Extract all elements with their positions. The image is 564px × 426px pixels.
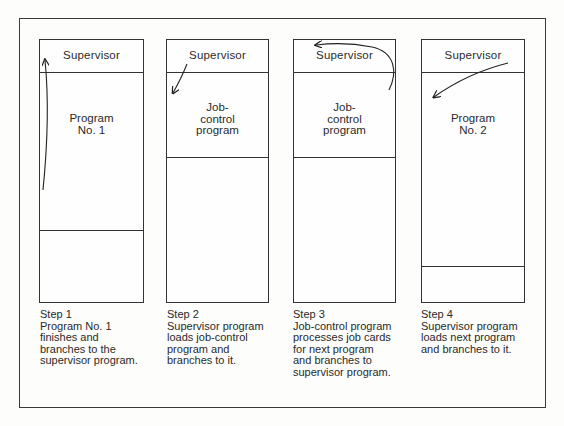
step-caption-4: Step 4 Supervisor program loads next pro… <box>421 309 551 355</box>
program-end-divider <box>40 230 143 231</box>
step-title: Step 2 <box>167 309 297 321</box>
caption-line: and branches to it. <box>421 344 551 356</box>
supervisor-divider <box>40 72 143 73</box>
program-label: Program No. 1 <box>40 113 143 136</box>
supervisor-divider <box>294 72 395 73</box>
caption-line: supervisor program. <box>40 355 170 367</box>
supervisor-label: Supervisor <box>167 40 268 72</box>
step-title: Step 4 <box>421 309 551 321</box>
program-label: Job- control program <box>294 102 395 137</box>
supervisor-divider <box>167 72 268 73</box>
caption-line: supervisor program. <box>293 367 423 379</box>
caption-line: branches to it. <box>167 355 297 367</box>
memory-box-step-1: Supervisor Program No. 1 <box>39 39 144 303</box>
step-title: Step 3 <box>293 309 423 321</box>
supervisor-label: Supervisor <box>40 40 143 72</box>
program-end-divider <box>294 157 395 158</box>
memory-box-step-4: Supervisor Program No. 2 <box>421 39 525 303</box>
supervisor-label: Supervisor <box>294 40 395 72</box>
program-end-divider <box>422 266 524 267</box>
step-caption-2: Step 2 Supervisor program loads job-cont… <box>167 309 297 367</box>
program-label: Job- control program <box>167 102 268 137</box>
memory-box-step-3: Supervisor Job- control program <box>293 39 396 303</box>
program-end-divider <box>167 157 268 158</box>
memory-box-step-2: Supervisor Job- control program <box>166 39 269 303</box>
step-caption-1: Step 1 Program No. 1 finishes and branch… <box>40 309 170 367</box>
supervisor-divider <box>422 72 524 73</box>
program-label: Program No. 2 <box>422 113 524 136</box>
supervisor-label: Supervisor <box>422 40 524 72</box>
step-caption-3: Step 3 Job-control program processes job… <box>293 309 423 379</box>
step-title: Step 1 <box>40 309 170 321</box>
